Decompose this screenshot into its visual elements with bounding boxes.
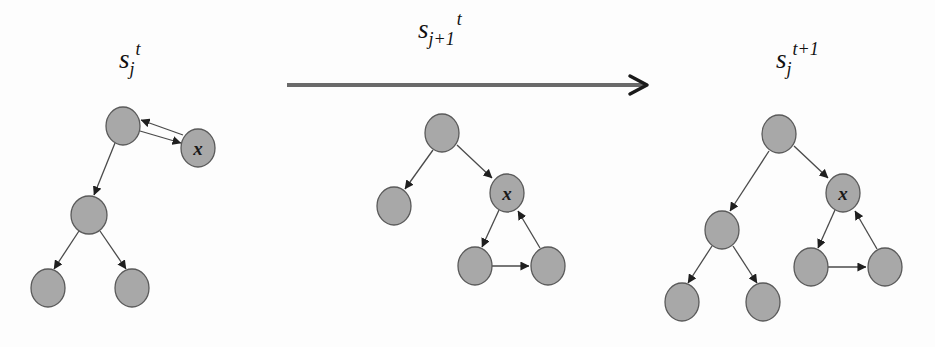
edge-root-to-mid xyxy=(730,151,769,211)
state-left-graph: x xyxy=(31,107,215,307)
edge-mid-to-leaf-left xyxy=(54,231,79,269)
edge-bottom-right-to-x xyxy=(518,211,540,248)
state-middle-graph: x xyxy=(377,114,565,285)
edge-root-to-x xyxy=(457,145,492,178)
node-bottom-left xyxy=(458,247,492,285)
edge-mid-to-leaf-left xyxy=(688,246,712,283)
node-left xyxy=(377,187,411,225)
edge-root-to-left xyxy=(405,150,433,189)
transition-arrow xyxy=(287,76,647,94)
state-label-right: sjt+1 xyxy=(776,39,819,79)
edge-root-to-mid xyxy=(94,143,115,195)
node-root xyxy=(762,115,796,153)
node-leaf-left xyxy=(665,283,699,321)
node-root xyxy=(425,114,459,152)
node-bottom-left xyxy=(794,248,828,286)
node-bottom-right xyxy=(531,247,565,285)
node-leaf-left xyxy=(31,269,65,307)
node-mid xyxy=(705,211,739,249)
edge-mid-to-leaf-right xyxy=(733,246,757,283)
edge-x-to-bottom-left xyxy=(818,210,835,248)
node-mid xyxy=(71,196,107,234)
node-root xyxy=(106,107,140,145)
state-label-left: sjt xyxy=(119,39,142,79)
figure-canvas: sjt sj+1t sjt+1 x xyxy=(0,0,935,347)
node-x-label: x xyxy=(837,183,848,204)
graph-transition-diagram: sjt sj+1t sjt+1 x xyxy=(0,0,935,347)
edge-bottom-right-to-x xyxy=(855,211,877,249)
node-x-label: x xyxy=(192,138,203,159)
node-bottom-right xyxy=(868,248,902,286)
node-leaf-right xyxy=(746,283,780,321)
edge-root-to-x xyxy=(140,131,181,143)
state-right-graph: x xyxy=(665,115,902,321)
node-x-label: x xyxy=(501,183,512,204)
edge-mid-to-leaf-right xyxy=(100,231,126,269)
edge-x-to-bottom-left xyxy=(482,210,499,247)
transition-label: sj+1t xyxy=(418,9,463,49)
node-leaf-right xyxy=(115,269,149,307)
edge-root-to-x xyxy=(794,146,828,178)
